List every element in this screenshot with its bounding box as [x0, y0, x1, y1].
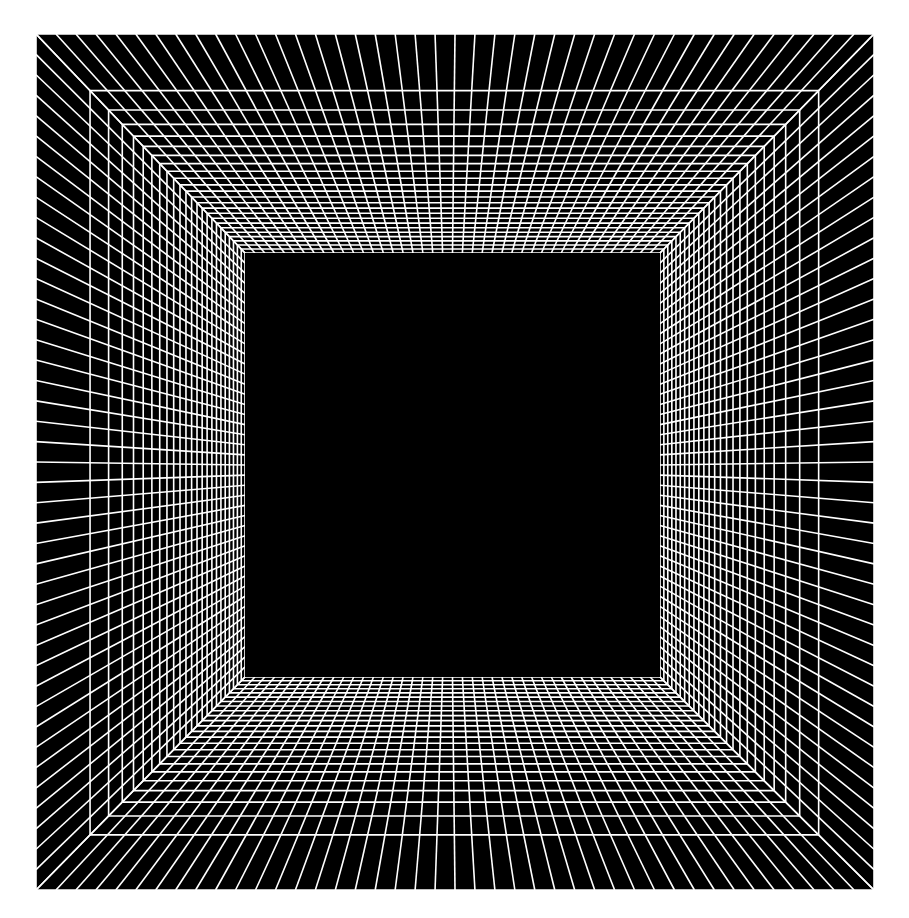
inner-opening [245, 253, 660, 677]
figure-root [0, 0, 909, 918]
perspective-grid-tunnel [0, 0, 909, 918]
